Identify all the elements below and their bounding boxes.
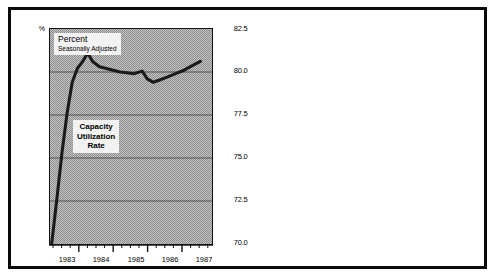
left-ytick-80-0: 80.0 (214, 67, 248, 75)
capacity-utilization-series-label: Capacity Utilization Rate (73, 120, 119, 153)
left-chart-subtitle: Seasonally Adjusted (58, 45, 117, 52)
figure-canvas: % 82.5 80.0 77.5 75.0 72.5 70.0 (0, 0, 495, 277)
left-axis-unit: % (23, 25, 45, 32)
chart-panel-cash-flow: Billions of Dollars Seasonally Adjusted … (248, 10, 485, 266)
left-ytick-82-5: 82.5 (214, 25, 248, 33)
figure-frame: % 82.5 80.0 77.5 75.0 72.5 70.0 (8, 7, 487, 269)
left-xtick-1986: 1986 (162, 256, 179, 264)
left-xtick-1984: 1984 (93, 256, 110, 264)
left-ytick-77-5: 77.5 (214, 110, 248, 118)
left-xtick-1985: 1985 (128, 256, 145, 264)
left-chart-caption: Percent Seasonally Adjusted (54, 33, 121, 55)
series-label-line-1: Capacity (77, 122, 115, 132)
left-ytick-75-0: 75.0 (214, 153, 248, 161)
left-chart-title: Percent (58, 35, 117, 45)
chart-panel-capacity-utilization: % 82.5 80.0 77.5 75.0 72.5 70.0 (11, 10, 248, 266)
left-xtick-1983: 1983 (59, 256, 76, 264)
left-xaxis-tickmarks (49, 245, 213, 254)
series-label-line-2: Utilization (77, 132, 115, 142)
left-ytick-72-5: 72.5 (214, 196, 248, 204)
left-ytick-70-0: 70.0 (214, 239, 248, 247)
series-label-line-3: Rate (77, 141, 115, 151)
left-xtick-1987: 1987 (196, 256, 213, 264)
